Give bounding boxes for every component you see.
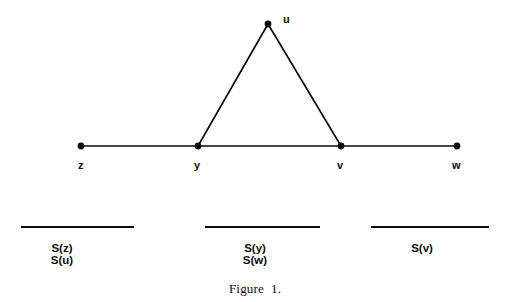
node-label-y: y bbox=[194, 160, 200, 171]
node-w bbox=[454, 143, 461, 150]
edges-group bbox=[81, 24, 457, 146]
partition-left-labels: S(z)S(u) bbox=[2, 242, 122, 266]
nodes-group bbox=[78, 21, 461, 150]
node-label-v: v bbox=[337, 160, 343, 171]
node-u bbox=[265, 21, 272, 28]
partition-right-label-0: S(v) bbox=[362, 242, 482, 254]
node-y bbox=[195, 143, 202, 150]
node-z bbox=[78, 143, 85, 150]
partition-middle-label-1: S(w) bbox=[195, 254, 315, 266]
node-label-w: w bbox=[452, 160, 461, 171]
node-label-u: u bbox=[283, 14, 290, 25]
node-label-z: z bbox=[78, 160, 84, 171]
edge-u-v bbox=[268, 24, 341, 146]
figure-caption: Figure 1. bbox=[175, 281, 335, 297]
figure-page: zyvwu S(z)S(u)S(y)S(w)S(v) Figure 1. bbox=[0, 0, 510, 302]
edge-y-u bbox=[198, 24, 268, 146]
node-v bbox=[338, 143, 345, 150]
partition-left-label-1: S(u) bbox=[2, 254, 122, 266]
partition-middle-labels: S(y)S(w) bbox=[195, 242, 315, 266]
partition-left-label-0: S(z) bbox=[2, 242, 122, 254]
partition-middle-label-0: S(y) bbox=[195, 242, 315, 254]
partition-right-labels: S(v) bbox=[362, 242, 482, 254]
